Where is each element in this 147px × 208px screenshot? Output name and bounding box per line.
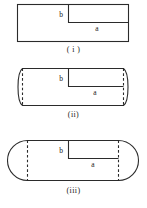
figure-ii-drawing: b a xyxy=(0,60,147,112)
figure-ii-inner-step xyxy=(69,69,124,87)
figure-iii-label-b: b xyxy=(59,146,63,155)
figure-iii-label-a: a xyxy=(91,160,95,169)
figure-i: b a ( i ) xyxy=(0,0,147,60)
figure-ii-label-a: a xyxy=(93,88,97,97)
figure-sheet: b a ( i ) b a (ii) b a xyxy=(0,0,147,208)
figure-ii-caption: (ii) xyxy=(0,110,147,119)
figure-i-inner-step xyxy=(69,5,129,23)
figure-i-drawing: b a xyxy=(0,0,147,46)
figure-i-label-b: b xyxy=(59,10,63,19)
figure-iii: b a (iii) xyxy=(0,130,147,208)
figure-i-label-a: a xyxy=(95,24,99,33)
figure-iii-caption: (iii) xyxy=(0,186,147,195)
figure-ii-label-b: b xyxy=(59,74,63,83)
figure-iii-inner-step xyxy=(69,141,119,159)
figure-i-caption: ( i ) xyxy=(0,45,147,54)
figure-ii: b a (ii) xyxy=(0,60,147,130)
figure-iii-drawing: b a xyxy=(0,130,147,186)
